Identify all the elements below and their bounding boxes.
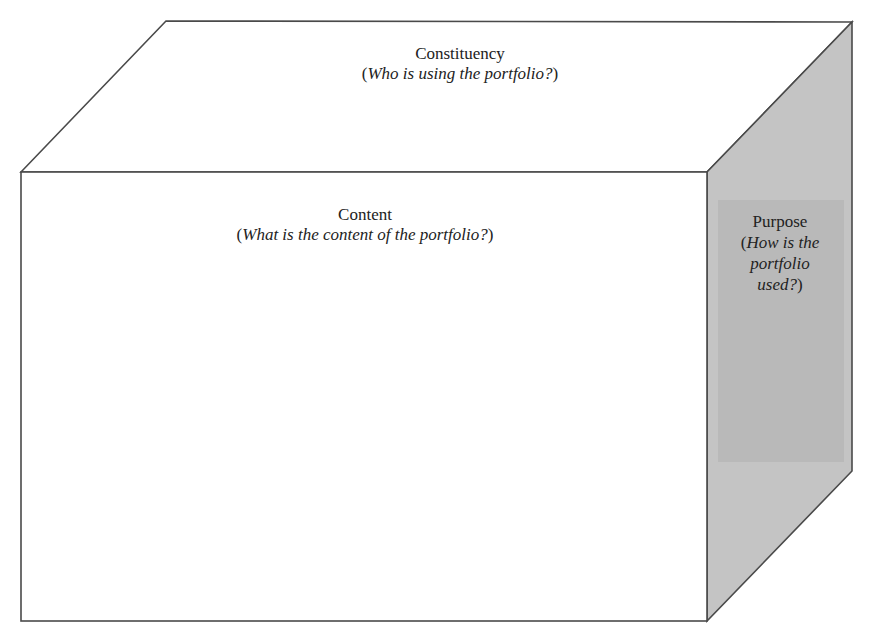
constituency-question: (Who is using the portfolio?) (200, 64, 720, 84)
side-face-label: Purpose (How is the portfolio used?) (712, 211, 848, 295)
cube-shape (0, 0, 874, 634)
front-face-label: Content (What is the content of the port… (100, 205, 630, 245)
purpose-title: Purpose (712, 211, 848, 232)
purpose-question-line-3: used?) (712, 274, 848, 295)
content-title: Content (100, 205, 630, 225)
top-face-label: Constituency (Who is using the portfolio… (200, 44, 720, 84)
content-question: (What is the content of the portfolio?) (100, 225, 630, 245)
purpose-question-line-1: (How is the (712, 232, 848, 253)
constituency-title: Constituency (200, 44, 720, 64)
purpose-question-line-2: portfolio (712, 253, 848, 274)
portfolio-cube-diagram: Constituency (Who is using the portfolio… (0, 0, 874, 634)
